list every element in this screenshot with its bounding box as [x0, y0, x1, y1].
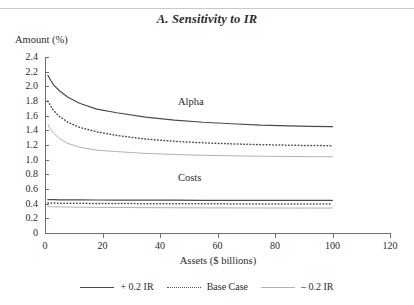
y-tick: 1.6 — [0, 110, 45, 122]
y-tick-label: 2.0 — [26, 80, 46, 91]
legend-swatch-icon — [167, 283, 201, 291]
top-divider — [0, 8, 414, 9]
y-tick-label: 1.8 — [26, 95, 46, 106]
x-tick-mark — [390, 234, 391, 238]
x-tick-mark — [218, 234, 219, 238]
legend-item[interactable]: Base Case — [167, 281, 248, 292]
x-axis-label: Assets ($ billions) — [45, 255, 391, 266]
series-line-alpha-solid-light — [48, 124, 333, 156]
legend-swatch-icon — [80, 283, 114, 291]
y-tick: 2.0 — [0, 80, 45, 92]
y-tick: 2.4 — [0, 51, 45, 63]
y-tick: 0.2 — [0, 212, 45, 224]
x-tick-mark — [160, 234, 161, 238]
y-tick: 1.8 — [0, 95, 45, 107]
x-tick: 60 — [198, 234, 238, 251]
y-tick-label: 0.2 — [26, 212, 46, 223]
y-tick: 1.0 — [0, 154, 45, 166]
x-tick: 120 — [370, 234, 410, 251]
y-tick-label: 1.4 — [26, 124, 46, 135]
x-tick-mark — [103, 234, 104, 238]
chart-title: A. Sensitivity to IR — [0, 12, 414, 27]
series-line-costs-dotted — [48, 203, 333, 204]
y-tick-label: 0.6 — [26, 183, 46, 194]
series-line-alpha-dotted — [48, 101, 333, 146]
y-tick-label: 2.2 — [26, 66, 46, 77]
y-tick-label: 0.4 — [26, 198, 46, 209]
legend-item[interactable]: – 0.2 IR — [261, 281, 334, 292]
y-tick: 2.2 — [0, 66, 45, 78]
legend-label: Base Case — [207, 281, 248, 292]
plot-area — [45, 57, 390, 233]
y-tick: 0.8 — [0, 168, 45, 180]
y-tick-label: 2.4 — [26, 51, 46, 62]
legend-label: – 0.2 IR — [301, 281, 334, 292]
x-tick: 0 — [25, 234, 65, 251]
series-lines — [45, 57, 390, 233]
x-tick: 40 — [140, 234, 180, 251]
y-axis-label: Amount (%) — [15, 34, 68, 45]
legend-swatch-icon — [261, 283, 295, 291]
x-tick: 80 — [255, 234, 295, 251]
y-tick: 0.4 — [0, 198, 45, 210]
annotation-alpha: Alpha — [178, 96, 204, 107]
y-tick-label: 1.2 — [26, 139, 46, 150]
series-line-costs-solid-light — [48, 207, 333, 208]
x-tick-label: 0 — [25, 234, 65, 251]
legend-label: + 0.2 IR — [120, 281, 153, 292]
y-tick-label: 1.6 — [26, 110, 46, 121]
series-line-costs-solid — [48, 200, 333, 201]
y-tick-label: 1.0 — [26, 154, 46, 165]
y-tick-label: 0.8 — [26, 168, 46, 179]
y-tick: 1.4 — [0, 124, 45, 136]
y-tick: 1.2 — [0, 139, 45, 151]
x-tick: 20 — [83, 234, 123, 251]
x-tick-mark — [333, 234, 334, 238]
x-tick-mark — [275, 234, 276, 238]
x-tick: 100 — [313, 234, 353, 251]
y-tick: 0.6 — [0, 183, 45, 195]
annotation-costs: Costs — [178, 172, 201, 183]
legend-item[interactable]: + 0.2 IR — [80, 281, 153, 292]
chart-legend: + 0.2 IRBase Case– 0.2 IR — [0, 281, 414, 292]
